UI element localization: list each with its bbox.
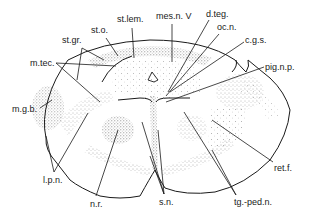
label-st-lem: st.lem. [117,14,144,24]
label-n-r: n.r. [90,199,103,209]
midbrain-section-diagram: st.o. st.lem. mes.n. V d.teg. oc.n. c.g.… [0,0,309,224]
label-mes-n-v: mes.n. V [156,11,192,21]
label-tg-ped-n: tg.-ped.n. [234,197,272,207]
label-d-teg: d.teg. [206,9,229,19]
label-m-g-b: m.g.b. [12,104,37,114]
label-s-n: s.n. [159,197,174,207]
label-st-o: st.o. [91,25,108,35]
red-nucleus-right [177,115,207,141]
label-l-p-n: l.p.n. [43,175,63,185]
label-oc-n: oc.n. [217,22,237,32]
label-st-gr: st.gr. [62,35,82,45]
substantia-nigra-left [84,145,150,176]
label-c-g-s: c.g.s. [245,35,267,45]
stippled-regions [32,46,280,176]
label-m-tec: m.tec. [30,58,55,68]
label-ret-f: ret.f. [274,163,292,173]
label-pig-n-p: pig.n.p. [265,62,295,72]
